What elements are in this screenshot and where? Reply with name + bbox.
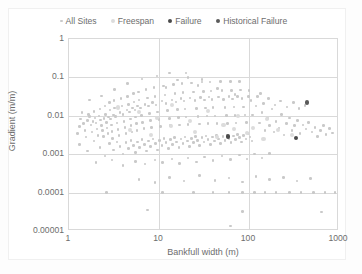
- data-point: [328, 127, 331, 130]
- data-point: [182, 91, 185, 94]
- data-point: [302, 124, 305, 127]
- data-point: [79, 118, 82, 121]
- data-point: [102, 135, 105, 138]
- data-point: [114, 115, 117, 118]
- data-point: [193, 130, 197, 134]
- data-point: [155, 104, 158, 107]
- data-point: [311, 131, 314, 134]
- data-point: [147, 140, 150, 143]
- data-point: [138, 99, 141, 102]
- y-tick-label: 0.00001: [33, 226, 64, 235]
- data-point: [192, 191, 195, 194]
- data-point: [141, 121, 144, 124]
- data-point: [121, 105, 124, 108]
- data-point: [203, 99, 206, 102]
- data-point: [176, 108, 179, 111]
- data-point: [154, 95, 157, 98]
- data-point: [137, 91, 140, 94]
- legend-item[interactable]: Historical Failure: [216, 17, 288, 26]
- data-point: [334, 191, 337, 194]
- legend-label: Historical Failure: [223, 17, 287, 26]
- data-point: [128, 111, 131, 114]
- data-point: [108, 142, 111, 145]
- data-point: [221, 89, 224, 92]
- data-point: [93, 110, 96, 113]
- legend-item[interactable]: Freespan: [111, 17, 155, 26]
- data-point: [208, 96, 211, 99]
- data-point: [107, 132, 110, 135]
- data-point: [285, 122, 288, 125]
- data-point: [97, 134, 100, 137]
- data-point: [122, 164, 125, 167]
- data-point: [161, 144, 164, 147]
- data-point: [148, 112, 151, 115]
- data-point: [99, 108, 102, 111]
- figure-container: All SitesFreespanFailureHistorical Failu…: [0, 0, 362, 274]
- y-tick-label: 0.1: [52, 72, 64, 81]
- data-point: [88, 115, 91, 118]
- data-point: [214, 115, 217, 118]
- data-point: [229, 225, 232, 228]
- data-point: [125, 132, 128, 135]
- data-point: [185, 116, 188, 119]
- data-point: [258, 122, 261, 125]
- data-point: [273, 131, 276, 134]
- data-point: [230, 141, 233, 144]
- data-point: [147, 105, 150, 108]
- data-point: [240, 141, 243, 144]
- data-point: [206, 115, 209, 118]
- data-point: [312, 191, 315, 194]
- data-point: [187, 123, 190, 126]
- data-point: [331, 132, 334, 135]
- data-point: [180, 138, 183, 141]
- data-point: [116, 141, 119, 144]
- legend-marker-icon: [216, 19, 221, 24]
- data-point: [251, 140, 254, 143]
- data-point: [144, 163, 147, 166]
- data-point: [99, 146, 102, 149]
- data-point: [184, 108, 187, 111]
- data-point: [126, 82, 129, 85]
- data-point: [155, 116, 159, 120]
- data-point: [214, 179, 217, 182]
- legend-item[interactable]: All Sites: [60, 17, 97, 26]
- data-point: [198, 123, 201, 126]
- data-point: [187, 157, 190, 160]
- data-point: [94, 117, 97, 120]
- data-point: [249, 136, 252, 139]
- data-point: [216, 122, 219, 125]
- data-point: [231, 98, 234, 101]
- data-point: [109, 109, 112, 112]
- data-point: [291, 129, 294, 132]
- legend-marker-icon: [60, 20, 63, 23]
- data-point: [133, 101, 136, 104]
- data-point: [228, 95, 231, 98]
- data-point: [151, 101, 154, 104]
- scatter-plot-area: [68, 38, 338, 230]
- legend-item[interactable]: Failure: [168, 17, 201, 26]
- data-point: [138, 178, 141, 181]
- data-point: [143, 143, 146, 146]
- data-point: [201, 136, 204, 139]
- data-point: [250, 99, 253, 102]
- data-point: [116, 105, 120, 109]
- data-point: [288, 191, 291, 194]
- data-point: [217, 96, 220, 99]
- data-point: [205, 135, 208, 138]
- data-point: [228, 177, 231, 180]
- data-point: [279, 100, 282, 103]
- data-point: [139, 107, 142, 110]
- data-point: [236, 95, 239, 98]
- data-point: [229, 80, 232, 83]
- data-point: [134, 109, 137, 112]
- data-point: [275, 120, 278, 123]
- data-point: [145, 150, 148, 153]
- data-point: [197, 84, 200, 87]
- data-point: [96, 128, 99, 131]
- data-point: [271, 108, 274, 111]
- data-point: [152, 138, 155, 141]
- data-point: [221, 155, 224, 158]
- data-point: [245, 121, 248, 124]
- data-point: [113, 88, 116, 91]
- data-point: [130, 124, 133, 127]
